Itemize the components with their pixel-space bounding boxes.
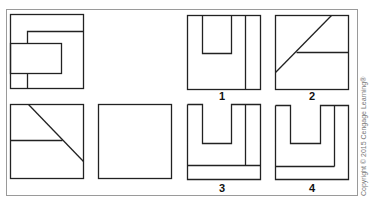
given-view-bottom-middle	[99, 105, 172, 179]
option-4-figure[interactable]	[276, 106, 349, 180]
option-1-label: 1	[219, 90, 225, 102]
option-2-figure[interactable]	[276, 16, 349, 90]
option-3-figure[interactable]	[188, 105, 261, 180]
option-4-label: 4	[309, 182, 316, 194]
option-2-label: 2	[309, 90, 315, 102]
copyright-notice: Copyright © 2015 Cengage Learning®	[360, 77, 367, 196]
given-view-bottom-left	[11, 105, 84, 179]
outer-frame	[7, 10, 358, 196]
given-view-top-left	[11, 15, 84, 89]
diagram-canvas: 1 2 3 4	[0, 0, 375, 201]
option-1-figure[interactable]	[188, 16, 261, 90]
option-3-label: 3	[219, 182, 225, 194]
